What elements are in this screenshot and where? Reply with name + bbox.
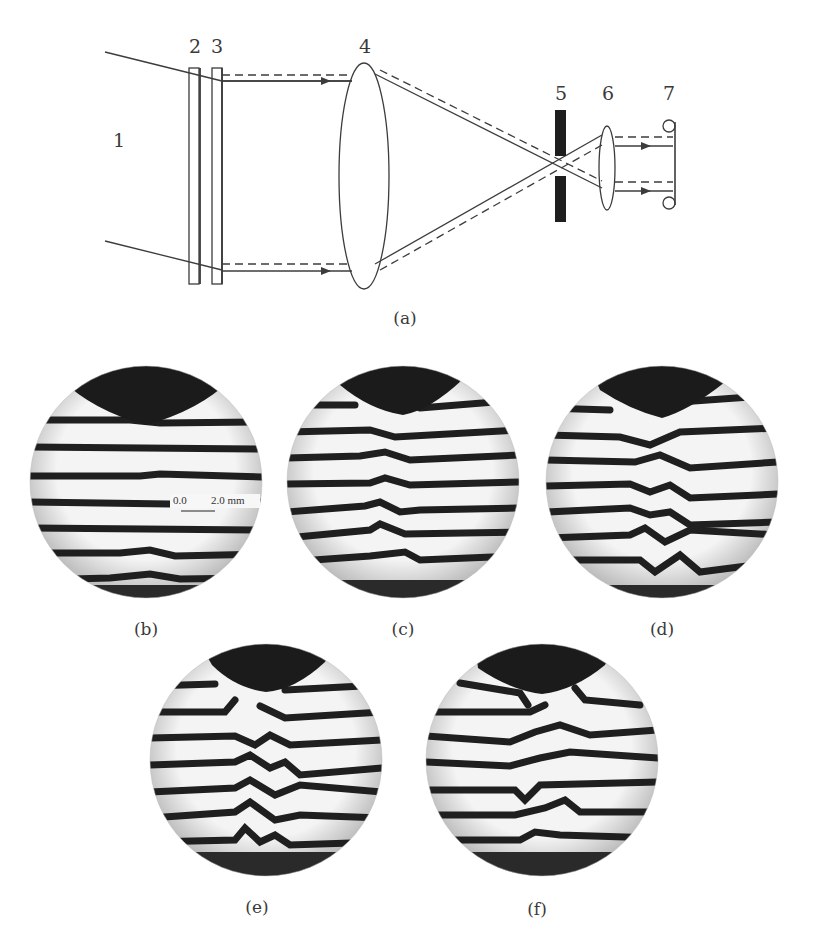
caption-e: (e)	[245, 899, 268, 916]
caption-f: (f)	[527, 901, 547, 918]
scale-bar-start: 0.0	[173, 494, 187, 506]
caption-c: (c)	[392, 621, 415, 638]
panel-c-interferogram	[287, 366, 519, 605]
panel-d-interferogram	[546, 366, 778, 605]
scale-bar-end: 2.0 mm	[211, 494, 245, 506]
panel-b-interferogram	[30, 366, 262, 605]
interferogram-panels	[0, 0, 813, 940]
caption-d: (d)	[650, 621, 674, 638]
panel-f-interferogram	[426, 644, 658, 880]
caption-b: (b)	[134, 621, 158, 638]
panel-e-interferogram	[150, 644, 382, 880]
